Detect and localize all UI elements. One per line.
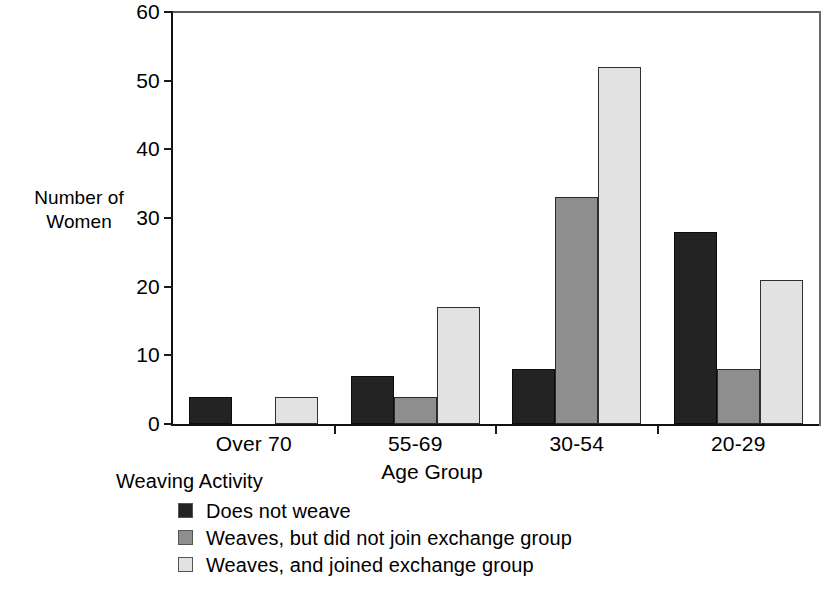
x-tick-label: Over 70 xyxy=(174,432,334,456)
legend-item-label: Weaves, and joined exchange group xyxy=(206,553,534,577)
bar xyxy=(189,397,232,424)
legend-item: Does not weave xyxy=(178,497,676,524)
y-tick-label: 20 xyxy=(116,276,160,297)
legend-swatch-icon xyxy=(178,530,193,545)
y-tick-label: 10 xyxy=(116,344,160,365)
bar xyxy=(674,232,717,424)
bar xyxy=(394,397,437,424)
legend-item-label: Does not weave xyxy=(206,499,351,523)
x-tick-label: 30-54 xyxy=(497,432,657,456)
y-tick-mark xyxy=(164,286,173,288)
y-tick-mark xyxy=(164,423,173,425)
bar xyxy=(717,369,760,424)
bar xyxy=(512,369,555,424)
y-tick-mark xyxy=(164,148,173,150)
plot-right-border xyxy=(819,11,821,426)
x-tick-label: 55-69 xyxy=(335,432,495,456)
legend: Weaving Activity Does not weaveWeaves, b… xyxy=(116,468,676,578)
legend-item: Weaves, but did not join exchange group xyxy=(178,524,676,551)
y-tick-mark xyxy=(164,80,173,82)
bar-chart: Number of Women 0102030405060 Over 7055-… xyxy=(0,0,825,592)
y-tick-mark xyxy=(164,217,173,219)
bar xyxy=(351,376,394,424)
bar xyxy=(555,197,598,424)
x-tick-label: 20-29 xyxy=(658,432,818,456)
plot-area xyxy=(173,12,819,424)
y-tick-label: 60 xyxy=(116,1,160,22)
y-tick-label: 40 xyxy=(116,138,160,159)
legend-title: Weaving Activity xyxy=(116,468,676,494)
legend-items: Does not weaveWeaves, but did not join e… xyxy=(116,497,676,578)
bar xyxy=(760,280,803,424)
bar xyxy=(598,67,641,424)
legend-swatch-icon xyxy=(178,503,193,518)
y-tick-mark xyxy=(164,354,173,356)
y-tick-mark xyxy=(164,11,173,13)
legend-item: Weaves, and joined exchange group xyxy=(178,551,676,578)
legend-swatch-icon xyxy=(178,557,193,572)
y-tick-label: 30 xyxy=(116,207,160,228)
y-tick-label: 0 xyxy=(116,413,160,434)
bar xyxy=(275,397,318,424)
legend-item-label: Weaves, but did not join exchange group xyxy=(206,526,572,550)
y-tick-label: 50 xyxy=(116,70,160,91)
bar xyxy=(437,307,480,424)
